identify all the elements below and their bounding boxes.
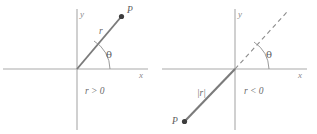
x-axis-label: x [297,70,302,80]
radius-label: |r| [197,88,206,98]
y-axis-label: y [79,9,84,19]
angle-label: θ [266,49,272,60]
diagram-panel-r-negative: y x |r| θ P r < 0 [159,0,317,134]
point-p-label: P [171,116,178,126]
point-p-marker [182,119,187,124]
radius-ray [77,17,121,69]
x-axis-label: x [138,70,143,80]
dashed-terminal-ray [235,12,287,69]
radius-label: r [99,26,103,36]
condition-label: r < 0 [244,86,264,96]
angle-label: θ [106,49,112,60]
point-p-marker [119,14,124,19]
y-axis-label: y [237,9,242,19]
condition-label: r > 0 [85,86,105,96]
radius-ray [185,69,235,121]
point-p-label: P [126,5,133,15]
diagram-panel-r-positive: y x r θ P r > 0 [0,0,158,134]
